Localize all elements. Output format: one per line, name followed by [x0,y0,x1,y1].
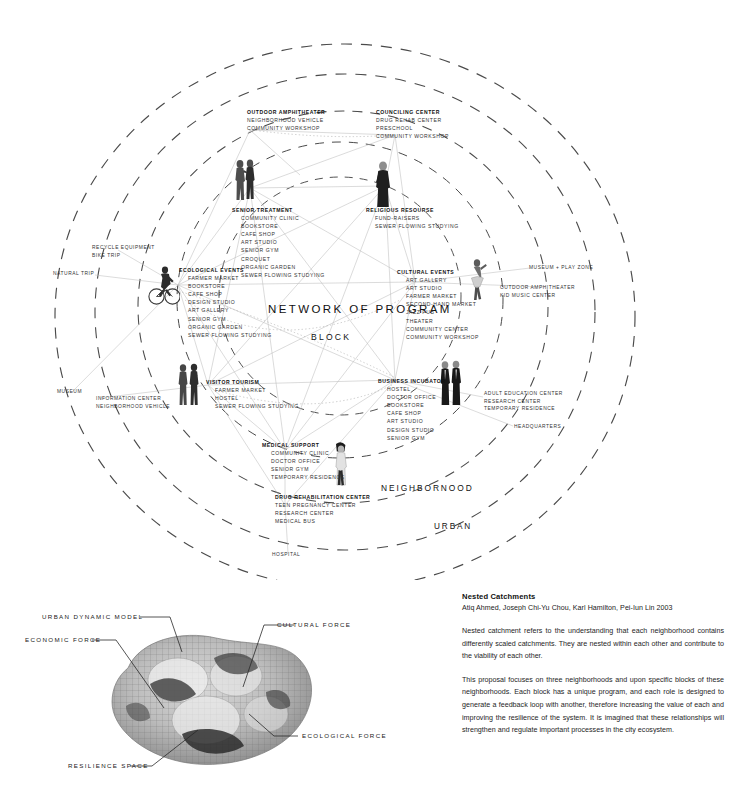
urban-dynamic-model-diagram: URBAN DYNAMIC MODEL CULTURAL FORCE ECONO… [0,588,440,794]
blob-label-economic-force: ECONOMIC FORCE [25,636,101,643]
cluster-head: BUSINESS INCUBATOR [378,377,445,385]
cluster-drug-rehabilitation-center: DRUG REHABILITATION CENTER TEEN PREGNANC… [275,493,370,525]
figure-religious-person [372,160,394,208]
cluster-visitor-tourism: VISITOR TOURISM FARMER MARKET HOSTEL SEW… [206,378,299,410]
cluster-item: COMMUNITY WORKSHOP [376,132,449,140]
peripheral-hospital: HOSPITAL [272,551,300,559]
figure-cyclist [148,265,180,305]
peripheral-museum: MUSEUM [57,388,82,396]
peripheral-line: RESEARCH CENTER [484,398,563,406]
cluster-head: ECOLOGICAL EVENTS [179,266,272,274]
caption-column: Nested Catchments Atiq Ahmed, Joseph Chi… [462,592,724,748]
peripheral-adult-education-center: ADULT EDUCATION CENTER RESEARCH CENTER T… [484,390,563,413]
cluster-item: PRESCHOOL [376,124,449,132]
figure-tourists [176,363,202,407]
blob-label-ecological-force: ECOLOGICAL FORCE [302,732,387,739]
caption-authors: Atiq Ahmed, Joseph Chi-Yu Chou, Karl Ham… [462,604,724,612]
peripheral-headquarters: HEADQUARTERS [514,423,561,431]
peripheral-outdoor-amphitheater-kid: OUTDOOR AMPHITHEATER KID MUSIC CENTER [500,284,575,299]
peripheral-line: MUSEUM + PLAY ZONE [529,264,593,272]
cluster-item: DRUG REHAB CENTER [376,116,449,124]
blob-label-cultural-force: CULTURAL FORCE [277,621,351,628]
cluster-cultural-events: CULTURAL EVENTS ART GALLERY ART STUDIO F… [397,268,479,341]
peripheral-line: HEADQUARTERS [514,423,561,431]
cluster-item: SEWER FLOWING STUDYING [206,402,299,410]
peripheral-line: RECYCLE EQUIPMENT [92,244,155,252]
cluster-item: CAFE SHOP [232,230,325,238]
peripheral-line: NEIGHBORHOOD VEHICLE [96,403,170,411]
figure-senior-couple [232,158,258,206]
cluster-head: SENIOR TREATMENT [232,206,325,214]
peripheral-natural-trip: NATURAL TRIP [53,270,94,278]
tier-label-neighborhood: NEIGHBORNOOD [381,483,474,493]
peripheral-line: HOSPITAL [272,551,300,559]
cluster-item: DESIGN STUDIO [378,426,445,434]
peripheral-museum-play-zone: MUSEUM + PLAY ZONE [529,264,593,272]
cluster-item: COMMUNITY WORKSHOP [247,124,325,132]
cluster-head: OUTDOOR AMPHITHEATER [247,108,325,116]
network-diagram-svg [0,0,741,580]
blob-mesh-body [100,623,330,783]
cluster-item: FARMER MARKET [206,386,299,394]
caption-paragraph-2: This proposal focuses on three neighborh… [462,674,724,737]
poster-root: NETWORK OF PROGRAM BLOCK NEIGHBORNOOD UR… [0,0,741,794]
cluster-ecological-events: ECOLOGICAL EVENTS FARMER MARKET BOOKSTOR… [179,266,272,339]
peripheral-line: OUTDOOR AMPHITHEATER [500,284,575,292]
cluster-item: ART STUDIO [232,238,325,246]
cluster-item: TEEN PREGNANCY CENTER [275,501,370,509]
cluster-item: FUND-RAISERS [366,214,459,222]
cluster-item: SEWER FLOWING STUDYING [179,331,272,339]
cluster-item: SENIOR GYM [262,465,345,473]
cluster-item: COMMUNITY WORKSHOP [397,333,479,341]
cluster-item: DESIGN STUDIO [179,298,272,306]
cluster-outdoor-amphitheater: OUTDOOR AMPHITHEATER NEIGHBORHOOD VEHICL… [247,108,325,132]
cluster-head: COUNCILING CENTER [376,108,449,116]
cluster-item: RESEARCH CENTER [275,509,370,517]
tier-label-urban: URBAN [434,522,472,531]
cluster-head: RELIGIOUS RESOURSE [366,206,459,214]
cluster-item: ART STUDIO [397,284,479,292]
peripheral-line: ADULT EDUCATION CENTER [484,390,563,398]
peripheral-line: TEMPORARY RESIDENCE [484,405,563,413]
cluster-item: THEATER [397,317,479,325]
cluster-item: HOSTEL [378,385,445,393]
cluster-item: NEIGHBORHOOD VEHICLE [247,116,325,124]
cluster-item: CAFE SHOP [179,290,272,298]
caption-title: Nested Catchments [462,592,724,601]
cluster-item: SENIOR GYM [179,315,272,323]
peripheral-recycle-equipment: RECYCLE EQUIPMENT BIKE TRIP [92,244,155,259]
cluster-counciling-center: COUNCILING CENTER DRUG REHAB CENTER PRES… [376,108,449,140]
cluster-item: COMMUNITY CLINIC [232,214,325,222]
cluster-head: MEDICAL SUPPORT [262,441,345,449]
caption-paragraph-1: Nested catchment refers to the understan… [462,625,724,663]
cluster-item: COMMUNITY CLINIC [262,449,345,457]
cluster-business-incubator: BUSINESS INCUBATOR HOSTEL DOCTOR OFFICE … [378,377,445,442]
cluster-item: TEMPORARY RESIDENCE [262,473,345,481]
cluster-item: DOCTOR OFFICE [378,393,445,401]
network-of-program-diagram: NETWORK OF PROGRAM BLOCK NEIGHBORNOOD UR… [0,0,741,580]
cluster-item: ART GALLERY [397,276,479,284]
cluster-item: CROQUET [232,255,325,263]
cluster-item: SENIOR GYM [232,246,325,254]
blob-label-resilience-space: RESILIENCE SPACE [68,762,149,769]
cluster-head: CULTURAL EVENTS [397,268,479,276]
peripheral-line: BIKE TRIP [92,252,155,260]
cluster-item: JAZZ PUB [397,308,479,316]
cluster-item: SECOND-HAND MARKET [397,300,479,308]
tier-label-block: BLOCK [311,332,351,342]
cluster-item: DOCTOR OFFICE [262,457,345,465]
cluster-item: ORGANIC GARDEN [179,323,272,331]
cluster-head: DRUG REHABILITATION CENTER [275,493,370,501]
cluster-item: ART GALLERY [179,306,272,314]
cluster-item: BOOKSTORE [232,222,325,230]
peripheral-line: INFORMATION CENTER [96,395,170,403]
cluster-item: SENIOR GYM [378,434,445,442]
cluster-item: BOOKSTORE [179,282,272,290]
blob-label-urban-dynamic-model: URBAN DYNAMIC MODEL [42,613,143,620]
cluster-head: VISITOR TOURISM [206,378,299,386]
cluster-medical-support: MEDICAL SUPPORT COMMUNITY CLINIC DOCTOR … [262,441,345,481]
cluster-item: COMMUNITY CENTER [397,325,479,333]
cluster-item: SEWER FLOWING STUDYING [366,222,459,230]
peripheral-line: MUSEUM [57,388,82,396]
cluster-item: BOOKSTORE [378,401,445,409]
